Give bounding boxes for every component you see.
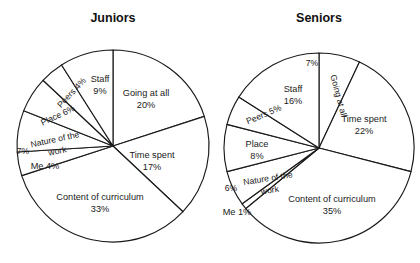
slice-label: Me 4% (31, 161, 60, 171)
slice-label-name: Place (246, 139, 269, 149)
slice-label-name: 7% (306, 58, 319, 68)
slice-label-name: Time spent (341, 114, 387, 124)
slice-label-value: 33% (91, 204, 109, 214)
slice-label-value: 22% (355, 126, 373, 136)
slice-label: 7% (306, 58, 319, 68)
slice-label-name: Content of curriculum (288, 194, 376, 204)
pie-juniors: JuniorsGoing at all20%Time spent17%Conte… (17, 11, 209, 242)
slice-label-name: 7% (17, 146, 30, 156)
slice-label-name: Me 1% (223, 207, 252, 217)
chart-canvas: JuniorsGoing at all20%Time spent17%Conte… (0, 0, 420, 263)
slice-label-name: Staff (91, 74, 110, 84)
slice-label-name: Staff (284, 84, 303, 94)
slice-label-value: 20% (137, 100, 155, 110)
slice-label: 7% (17, 146, 30, 156)
slice-label-value: 9% (93, 86, 106, 96)
slice-label-value: 16% (284, 96, 302, 106)
slice-label-name: Going at all (123, 88, 169, 98)
pie-seniors: SeniorsGoing at all7%Time spent22%Conten… (223, 11, 414, 243)
slice-label-name: Me 4% (31, 161, 60, 171)
slice-label-value: 8% (250, 151, 263, 161)
slice-label: Me 1% (223, 207, 252, 217)
chart-title: Seniors (296, 11, 342, 25)
slice-label-name: Content of curriculum (56, 192, 144, 202)
slice-label-name: 6% (225, 183, 238, 193)
slice-label: 6% (225, 183, 238, 193)
slice-label-name: Time spent (129, 150, 175, 160)
chart-title: Juniors (90, 11, 135, 25)
slice-label-value: 17% (143, 162, 161, 172)
slice-label-value: 35% (323, 206, 341, 216)
pie-chart-figure: JuniorsGoing at all20%Time spent17%Conte… (0, 0, 420, 263)
